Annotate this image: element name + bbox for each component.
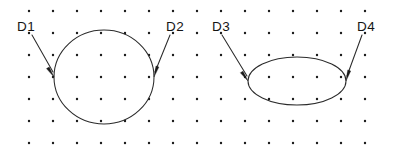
grid-dot xyxy=(28,98,30,100)
grid-dot xyxy=(268,32,270,34)
shape-labels: D1D2D3D4 xyxy=(17,19,375,34)
grid-dot xyxy=(292,120,294,122)
grid-dot xyxy=(196,98,198,100)
label-d3: D3 xyxy=(212,19,230,34)
grid-dot xyxy=(28,10,30,12)
grid-dot xyxy=(124,76,126,78)
arrow-head-d4 xyxy=(346,70,351,81)
grid-dot xyxy=(316,10,318,12)
grid-dot xyxy=(124,10,126,12)
grid-dot xyxy=(76,54,78,56)
grid-dot xyxy=(364,76,366,78)
grid-dot xyxy=(316,120,318,122)
grid-dot xyxy=(196,54,198,56)
shape-circle xyxy=(54,30,154,124)
grid-dot xyxy=(220,76,222,78)
grid-dot xyxy=(364,142,366,144)
grid-dot xyxy=(52,120,54,122)
label-d1: D1 xyxy=(17,19,35,34)
grid-dot xyxy=(52,10,54,12)
grid-dot xyxy=(76,120,78,122)
grid-dot xyxy=(244,32,246,34)
leader-line-d1 xyxy=(32,35,53,72)
grid-dot xyxy=(244,10,246,12)
grid-dot xyxy=(244,120,246,122)
grid-dot xyxy=(76,10,78,12)
grid-dot xyxy=(340,54,342,56)
grid-dot xyxy=(340,32,342,34)
grid-dot xyxy=(148,142,150,144)
dot-grid xyxy=(28,10,366,144)
grid-dot xyxy=(28,142,30,144)
grid-dot xyxy=(196,142,198,144)
grid-dot xyxy=(76,76,78,78)
grid-dot xyxy=(292,10,294,12)
grid-dot xyxy=(148,10,150,12)
grid-dot xyxy=(292,54,294,56)
grid-dot xyxy=(268,120,270,122)
grid-dot xyxy=(364,98,366,100)
grid-dot xyxy=(340,142,342,144)
grid-dot xyxy=(340,76,342,78)
grid-dot xyxy=(172,10,174,12)
grid-dot xyxy=(364,10,366,12)
grid-dot xyxy=(292,98,294,100)
grid-dot xyxy=(316,76,318,78)
grid-dot xyxy=(196,10,198,12)
grid-dot xyxy=(268,10,270,12)
grid-dot xyxy=(100,98,102,100)
grid-dot xyxy=(220,142,222,144)
grid-dot xyxy=(172,120,174,122)
grid-dot xyxy=(220,10,222,12)
grid-dot xyxy=(100,10,102,12)
grid-dot xyxy=(244,142,246,144)
grid-dot xyxy=(244,98,246,100)
grid-dot xyxy=(100,120,102,122)
grid-dot xyxy=(292,142,294,144)
grid-dot xyxy=(52,54,54,56)
grid-dot xyxy=(268,76,270,78)
grid-dot xyxy=(148,76,150,78)
grid-dot xyxy=(76,98,78,100)
grid-dot xyxy=(196,120,198,122)
grid-dot xyxy=(52,98,54,100)
grid-dot xyxy=(316,142,318,144)
label-d2: D2 xyxy=(166,19,184,34)
diagram-canvas: D1D2D3D4 xyxy=(0,0,400,157)
grid-dot xyxy=(100,54,102,56)
grid-dot xyxy=(292,32,294,34)
grid-dot xyxy=(148,120,150,122)
grid-dot xyxy=(124,54,126,56)
grid-dot xyxy=(340,98,342,100)
grid-dot xyxy=(364,54,366,56)
grid-dot xyxy=(316,32,318,34)
grid-dot xyxy=(268,54,270,56)
grid-dot xyxy=(244,54,246,56)
grid-dot xyxy=(100,32,102,34)
grid-dot xyxy=(124,98,126,100)
grid-dot xyxy=(28,76,30,78)
grid-dot xyxy=(148,32,150,34)
label-d4: D4 xyxy=(357,19,375,34)
grid-dot xyxy=(172,54,174,56)
leader-line-d4 xyxy=(347,35,362,76)
grid-dot xyxy=(316,54,318,56)
grid-dot xyxy=(76,32,78,34)
grid-dot xyxy=(100,76,102,78)
grid-dot xyxy=(268,142,270,144)
grid-dot xyxy=(172,98,174,100)
grid-dot xyxy=(52,142,54,144)
grid-dot xyxy=(28,54,30,56)
grid-dot xyxy=(268,98,270,100)
grid-dot xyxy=(76,142,78,144)
grid-dot xyxy=(28,120,30,122)
shape-ellipse xyxy=(248,57,346,105)
grid-dot xyxy=(316,98,318,100)
grid-dot xyxy=(196,32,198,34)
grid-dot xyxy=(220,54,222,56)
grid-dot xyxy=(292,76,294,78)
grid-dot xyxy=(220,98,222,100)
grid-dot xyxy=(52,32,54,34)
shape-outlines xyxy=(54,30,346,124)
grid-dot xyxy=(340,120,342,122)
